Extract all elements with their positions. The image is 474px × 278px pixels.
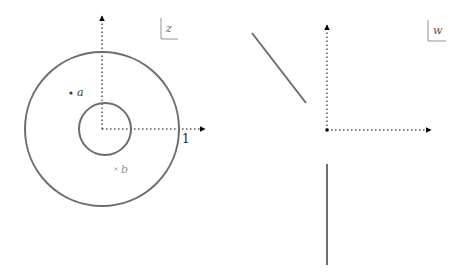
w-plane: w — [252, 20, 446, 265]
w-origin-marker — [326, 129, 329, 132]
unit-tick-label: 1 — [182, 132, 190, 146]
w-plane-label: w — [433, 24, 443, 37]
point-a-marker — [69, 91, 72, 94]
point-b-marker — [115, 168, 118, 171]
z-plane-label-box: z — [161, 18, 178, 39]
w-plane-label-box: w — [428, 20, 446, 41]
z-plane-label: z — [165, 22, 172, 35]
diagram-canvas: 1 a b z w — [0, 0, 474, 278]
point-a-label: a — [77, 86, 84, 99]
image-segment-diagonal — [252, 33, 306, 103]
point-b-label: b — [121, 163, 128, 176]
z-plane: 1 a b z — [25, 16, 205, 206]
